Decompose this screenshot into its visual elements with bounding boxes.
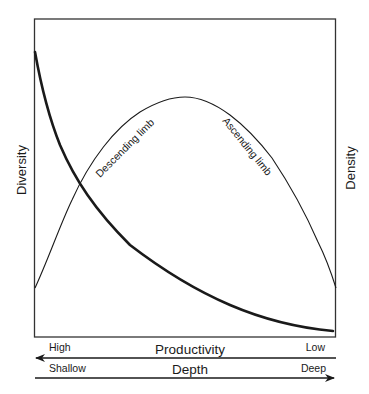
diversity-axis-label: Diversity xyxy=(14,145,29,195)
depth-deep-label: Deep xyxy=(301,362,326,374)
productivity-depth-diagram: Descending limb Ascending limb Diversity… xyxy=(0,0,369,394)
plot-frame xyxy=(35,19,336,337)
diversity-curve xyxy=(35,97,336,288)
depth-title: Depth xyxy=(172,362,208,377)
ascending-limb-label: Ascending limb xyxy=(220,115,274,178)
productivity-title: Productivity xyxy=(155,342,225,357)
depth-shallow-label: Shallow xyxy=(49,362,86,374)
density-axis-label: Density xyxy=(343,146,358,190)
productivity-high-label: High xyxy=(49,341,71,353)
density-curve xyxy=(35,52,333,331)
productivity-low-label: Low xyxy=(306,341,326,353)
